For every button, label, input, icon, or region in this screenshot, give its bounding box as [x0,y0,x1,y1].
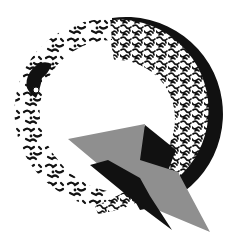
textured-ring-left [14,19,112,210]
ring-eye-dot [33,87,39,93]
q-logo-graphic [0,0,234,246]
q-logo: Stylized Q logo [0,0,234,246]
